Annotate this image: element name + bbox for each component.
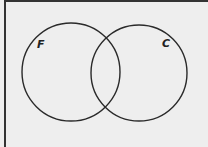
set-label-c: C	[162, 37, 170, 50]
venn-diagram: F C	[0, 0, 208, 147]
venn-svg: F C	[0, 0, 208, 147]
set-label-f: F	[37, 38, 45, 51]
set-circle-c	[91, 25, 187, 121]
